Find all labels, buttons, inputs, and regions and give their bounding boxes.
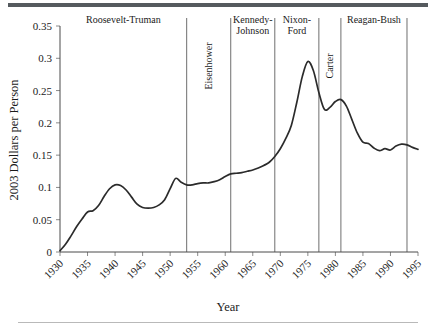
x-tick-label: 1930: [41, 257, 65, 281]
y-tick-label: 0.05: [33, 214, 53, 226]
axis-lines: [60, 26, 418, 252]
data-series-line: [60, 61, 418, 250]
bottom-rule: [18, 322, 418, 323]
era-label: Nixon-: [283, 14, 311, 25]
line-chart: 00.050.10.150.20.250.30.35 1930193519401…: [0, 0, 433, 330]
x-axis-title: Year: [216, 300, 240, 314]
y-tick-label: 0.25: [33, 85, 53, 97]
era-label: Eisenhower: [203, 42, 214, 90]
era-label: Ford: [287, 25, 306, 36]
y-tick-label: 0.2: [38, 117, 52, 129]
y-tick-label: 0: [47, 246, 53, 258]
x-tick-label: 1975: [289, 257, 313, 281]
y-tick-label: 0.35: [33, 20, 53, 32]
era-labels: Roosevelt-TrumanEisenhowerKennedy-Johnso…: [86, 14, 401, 90]
figure-container: 00.050.10.150.20.250.30.35 1930193519401…: [0, 0, 433, 330]
era-label: Reagan-Bush: [347, 14, 401, 25]
x-tick-label: 1940: [96, 257, 120, 281]
x-tick-label: 1985: [344, 257, 368, 281]
y-axis-title: 2003 Dollars per Person: [7, 79, 21, 201]
era-label: Carter: [324, 53, 335, 79]
x-tick-label: 1935: [69, 257, 93, 281]
era-label: Kennedy-: [233, 14, 272, 25]
era-label: Johnson: [236, 25, 269, 36]
x-tick-label: 1955: [179, 257, 203, 281]
x-tick-label: 1965: [234, 257, 258, 281]
top-rule: [8, 3, 428, 7]
y-tick-label: 0.15: [33, 149, 53, 161]
x-tick-label: 1980: [317, 257, 341, 281]
x-axis-tick-labels: 1930193519401945195019551960196519701975…: [41, 257, 423, 281]
x-tick-label: 1995: [399, 257, 423, 281]
x-tick-label: 1950: [152, 257, 176, 281]
y-tick-label: 0.3: [38, 52, 52, 64]
era-label: Roosevelt-Truman: [86, 14, 161, 25]
y-tick-label: 0.1: [38, 181, 52, 193]
y-axis-tick-labels: 00.050.10.150.20.250.30.35: [33, 20, 53, 258]
x-tick-label: 1945: [124, 257, 148, 281]
axis-tick-marks: [56, 26, 418, 256]
x-tick-label: 1960: [207, 257, 231, 281]
x-tick-label: 1990: [372, 257, 396, 281]
era-divider-lines: [187, 18, 407, 252]
x-tick-label: 1970: [262, 257, 286, 281]
